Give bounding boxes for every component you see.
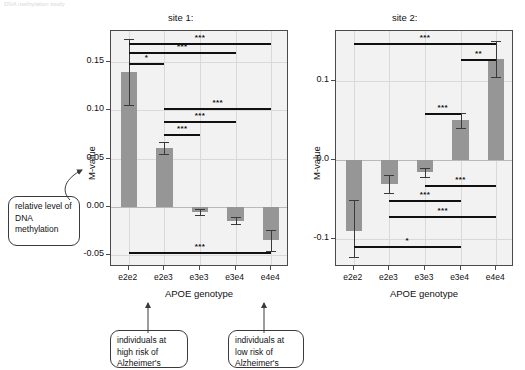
x-tick [235,266,236,270]
error-cap [159,142,169,143]
significance-stars: *** [110,33,288,42]
y-tick-label: 0.15 [62,55,104,65]
y-tick [106,109,110,110]
gridline-vertical [236,31,237,265]
bar-e2e3 [156,148,172,207]
y-tick [331,80,335,81]
y-axis-title-site-2: M-value [311,146,322,180]
y-tick-label: 0.05 [62,152,104,162]
x-axis-title-site-1: APOE genotype [110,288,288,299]
significance-stars: * [110,53,184,62]
significance-line [461,59,497,61]
significance-line [354,43,496,45]
significance-line [425,185,496,187]
y-tick-label: 0.1 [287,74,329,84]
gridline-horizontal [111,255,287,256]
error-cap [231,217,241,218]
error-cap [124,105,134,106]
callout-high-risk: individuals at high risk of Alzheimer's [110,330,188,368]
error-cap [195,209,205,210]
x-tick [460,266,461,270]
significance-line [129,63,165,65]
y-tick [331,159,335,160]
y-tick [106,254,110,255]
gridline-vertical [425,31,426,265]
cut-header-text: DNA methylation study [4,0,204,8]
y-tick [331,238,335,239]
significance-stars: *** [144,124,220,133]
significance-stars: *** [110,242,288,251]
error-cap [491,77,501,78]
significance-line [389,216,496,218]
significance-line [425,113,461,115]
x-tick [424,266,425,270]
figure-root: DNA methylation study site 1: **********… [0,0,525,370]
error-cap [349,200,359,201]
significance-line [129,252,271,254]
y-tick-label: 0.10 [62,103,104,113]
y-tick [106,206,110,207]
error-cap [349,257,359,258]
y-tick-label: -0.05 [62,248,104,258]
plot-area-site-2: ****************** [335,30,513,266]
panel-title-site-1: site 1: [168,12,193,23]
error-cap [384,175,394,176]
error-bar-e2e3 [164,142,165,154]
significance-stars: *** [335,33,513,42]
x-tick [353,266,354,270]
panel-title-site-2: site 2: [392,12,417,23]
error-bar-e3e4 [236,217,237,225]
gridline-horizontal [111,159,287,160]
x-tick [128,266,129,270]
significance-line [354,246,461,248]
significance-line [389,200,460,202]
y-tick-label: 0.0 [287,153,329,163]
significance-line [164,134,200,136]
x-axis-title-site-2: APOE genotype [335,288,513,299]
error-cap [456,128,466,129]
callout-low-risk: individuals at low risk of Alzheimer's [228,330,304,368]
gridline-vertical [389,31,390,265]
significance-stars: *** [110,42,256,51]
significance-stars: *** [369,190,480,199]
gridline-vertical [200,31,201,265]
y-tick-label: -0.1 [287,232,329,242]
significance-stars: *** [144,111,255,120]
significance-stars: *** [369,206,513,215]
y-tick [106,158,110,159]
error-cap [231,224,241,225]
x-tick-label-e4e4: e4e4 [473,272,517,282]
significance-stars: *** [144,98,288,107]
error-bar-e2e2 [354,200,355,257]
x-tick-label-e4e4: e4e4 [248,272,292,282]
significance-stars: * [335,236,481,245]
x-tick [163,266,164,270]
gridline-horizontal [336,81,512,82]
x-tick [388,266,389,270]
y-tick [106,61,110,62]
significance-stars: *** [405,175,513,184]
y-tick-label: 0.00 [62,200,104,210]
plot-area-site-1: ******************* [110,30,288,266]
error-cap [266,230,276,231]
significance-stars: ** [441,49,513,58]
x-tick [199,266,200,270]
error-bar-e3e4 [461,113,462,127]
error-cap [159,154,169,155]
x-tick [270,266,271,270]
x-tick [495,266,496,270]
significance-stars: *** [405,103,481,112]
error-cap [195,215,205,216]
error-cap [420,168,430,169]
